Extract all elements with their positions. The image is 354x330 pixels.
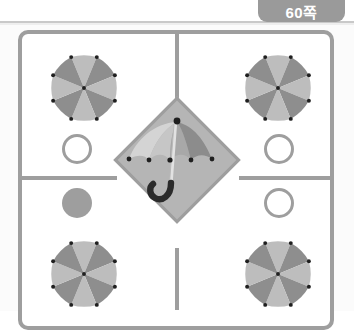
umbrella-handle	[150, 183, 171, 199]
umbrella-tip-dot	[51, 285, 55, 289]
umbrella-tip-dot	[113, 259, 117, 263]
umbrella-tip-dot	[95, 303, 99, 307]
umbrella-tip-dot	[289, 241, 293, 245]
tip-dot-mid-r	[189, 158, 194, 163]
umbrella-tip-dot	[263, 55, 267, 59]
umbrella-center-hub	[82, 86, 86, 90]
umbrella-tip-dot	[263, 241, 267, 245]
umbrella-tip-dot	[69, 117, 73, 121]
circle-marker-left-upper	[62, 134, 92, 164]
umbrella-center-hub	[276, 86, 280, 90]
umbrella-tip-dot	[51, 99, 55, 103]
umbrella-center-hub	[82, 272, 86, 276]
umbrella-top-right	[240, 50, 316, 126]
umbrella-tip-dot	[307, 259, 311, 263]
umbrella-tip-dot	[245, 73, 249, 77]
umbrella-tip-dot	[95, 241, 99, 245]
circle-marker-right-upper	[264, 134, 294, 164]
umbrella-center-hub	[276, 272, 280, 276]
umbrella-tip-dot	[69, 55, 73, 59]
circle-marker-right-lower	[264, 188, 294, 218]
finial-dot	[174, 118, 181, 125]
umbrella-center-side-view	[124, 110, 230, 210]
tip-dot-center	[167, 157, 172, 162]
umbrella-tip-dot	[245, 285, 249, 289]
umbrella-tip-dot	[307, 73, 311, 77]
umbrella-tip-dot	[289, 303, 293, 307]
umbrella-tip-dot	[113, 285, 117, 289]
umbrella-tip-dot	[95, 55, 99, 59]
umbrella-tip-dot	[263, 303, 267, 307]
divider-horizontal-right	[239, 176, 330, 180]
umbrella-bottom-left	[46, 236, 122, 312]
umbrella-tip-dot	[245, 259, 249, 263]
tip-dot-left	[127, 157, 132, 162]
divider-vertical-bottom	[175, 248, 179, 310]
umbrella-tip-dot	[113, 73, 117, 77]
page-number-tab[interactable]: 60쪽	[258, 0, 345, 22]
umbrella-bottom-right	[240, 236, 316, 312]
umbrella-tip-dot	[69, 241, 73, 245]
umbrella-tip-dot	[289, 55, 293, 59]
divider-horizontal-left	[22, 176, 117, 180]
umbrella-tip-dot	[69, 303, 73, 307]
umbrella-tip-dot	[51, 259, 55, 263]
umbrella-tip-dot	[245, 99, 249, 103]
page-top-rule-shadow	[0, 23, 354, 25]
umbrella-tip-dot	[51, 73, 55, 77]
umbrella-tip-dot	[113, 99, 117, 103]
page-number-label: 60쪽	[285, 5, 317, 20]
umbrella-tip-dot	[307, 99, 311, 103]
umbrella-top-left	[46, 50, 122, 126]
umbrella-tip-dot	[95, 117, 99, 121]
umbrella-tip-dot	[289, 117, 293, 121]
tip-dot-right	[210, 157, 215, 162]
tip-dot-mid-l	[147, 158, 152, 163]
umbrella-tip-dot	[307, 285, 311, 289]
circle-marker-left-lower	[62, 188, 92, 218]
umbrella-tip-dot	[263, 117, 267, 121]
